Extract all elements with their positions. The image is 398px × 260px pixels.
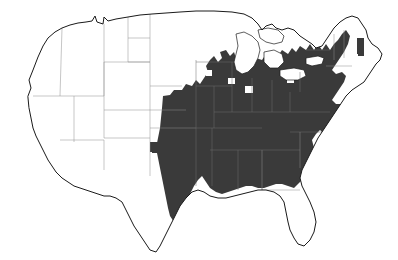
shaded-patch-west-texas-b <box>167 157 172 166</box>
shaded-patch-panhandle-b <box>184 116 192 123</box>
us-distribution-map <box>0 0 398 260</box>
shaded-patch-georgia <box>300 148 305 153</box>
shaded-region-florida <box>340 184 360 222</box>
lake-erie <box>280 68 306 80</box>
map-canvas <box>0 0 398 260</box>
shaded-patch-maine <box>357 38 364 54</box>
unshaded-notch-b <box>228 78 235 84</box>
unshaded-notch-d <box>206 70 212 76</box>
shaded-patch-west-texas-a <box>152 142 158 153</box>
